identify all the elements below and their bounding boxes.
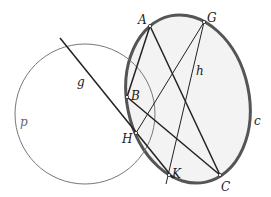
- point-B: [125, 95, 128, 98]
- label-K: K: [171, 167, 182, 181]
- diagram-canvas: A G B H K C g h c p: [0, 0, 271, 197]
- label-g: g: [77, 75, 85, 89]
- point-K: [167, 173, 170, 176]
- point-C: [218, 173, 221, 176]
- label-C: C: [221, 180, 230, 194]
- geometry-diagram: A G B H K C g h c p: [0, 0, 271, 197]
- label-B: B: [130, 89, 140, 103]
- label-G: G: [207, 11, 217, 25]
- label-p: p: [20, 115, 28, 129]
- label-A: A: [137, 13, 147, 27]
- point-A: [148, 24, 151, 27]
- label-H: H: [121, 132, 133, 146]
- label-h: h: [196, 64, 204, 78]
- point-H: [134, 131, 137, 134]
- point-G: [202, 20, 205, 23]
- label-c: c: [254, 114, 261, 128]
